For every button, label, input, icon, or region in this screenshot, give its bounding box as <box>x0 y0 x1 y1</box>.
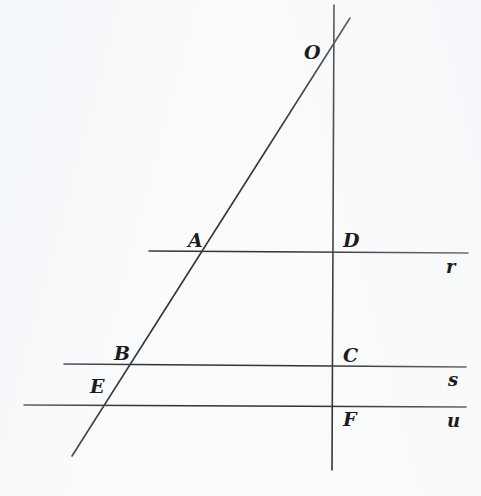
point-label-B: B <box>114 344 130 363</box>
point-label-F: F <box>343 410 357 429</box>
line-u <box>24 405 466 407</box>
point-label-D: D <box>343 231 359 250</box>
line-s <box>64 364 466 367</box>
geometry-figure <box>0 0 481 496</box>
vertical-transversal <box>332 5 334 470</box>
lines-group <box>24 5 468 470</box>
point-label-E: E <box>90 377 104 396</box>
point-label-C: C <box>343 346 358 365</box>
line-r <box>149 251 468 253</box>
diagram-canvas: O A D B C E F r s u <box>0 0 481 496</box>
line-label-r: r <box>446 258 455 276</box>
line-label-s: s <box>448 371 458 389</box>
point-label-A: A <box>188 231 203 250</box>
oblique-transversal <box>72 18 350 456</box>
point-label-O: O <box>304 43 321 62</box>
line-label-u: u <box>447 412 460 430</box>
